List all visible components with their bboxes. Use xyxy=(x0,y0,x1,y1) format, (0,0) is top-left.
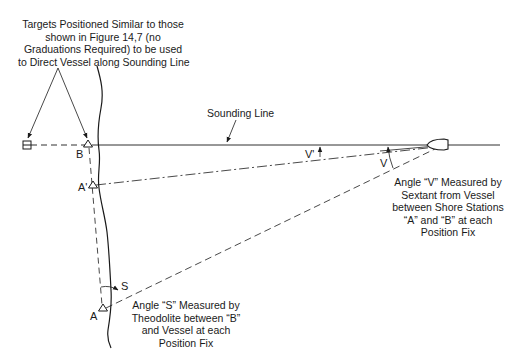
leader-arrow-b xyxy=(58,68,87,138)
angle-s-note-line: Position Fix xyxy=(123,337,249,350)
targets-note-line: to Direct Vessel along Sounding Line xyxy=(18,56,188,69)
angle-s-note-line: Angle “S” Measured by xyxy=(123,299,249,312)
point-b-label: B xyxy=(76,148,83,160)
targets-note-line: Targets Positioned Similar to those xyxy=(18,18,188,31)
square-target-icon xyxy=(23,141,31,149)
vessel-icon xyxy=(427,139,448,150)
baseline-b-a xyxy=(89,148,102,305)
angle-s-note-line: and Vessel at each xyxy=(123,324,249,337)
leader-arrow-square xyxy=(28,68,58,138)
angle-v-note: Angle “V” Measured by Sextant from Vesse… xyxy=(383,176,513,239)
angle-v-label: V xyxy=(380,157,387,169)
station-b-triangle-icon xyxy=(84,140,93,147)
angle-s-label: S xyxy=(121,280,128,292)
angle-v-note-line: between Shore Stations xyxy=(383,201,513,214)
angle-s-note: Angle “S” Measured by Theodolite between… xyxy=(123,299,249,349)
sounding-line-leader xyxy=(227,120,236,142)
angle-vprime-label: V' xyxy=(305,148,314,160)
angle-v-note-line: “A” and “B” at each xyxy=(383,214,513,227)
targets-note-line: shown in Figure 14,7 (no xyxy=(18,31,188,44)
angle-s-note-line: Theodolite between “B” xyxy=(123,312,249,325)
angle-s-arc xyxy=(101,286,118,290)
angle-v-note-line: Position Fix xyxy=(383,226,513,239)
angle-v-note-line: Angle “V” Measured by xyxy=(383,176,513,189)
angle-v-note-line: Sextant from Vessel xyxy=(383,189,513,202)
station-aprime-triangle-icon xyxy=(89,181,98,188)
targets-note: Targets Positioned Similar to those show… xyxy=(18,18,188,68)
sounding-line-label: Sounding Line xyxy=(207,107,274,120)
targets-note-line: Graduations Required) to be used xyxy=(18,43,188,56)
point-a-label: A xyxy=(90,310,97,322)
point-aprime-label: A' xyxy=(78,181,87,193)
